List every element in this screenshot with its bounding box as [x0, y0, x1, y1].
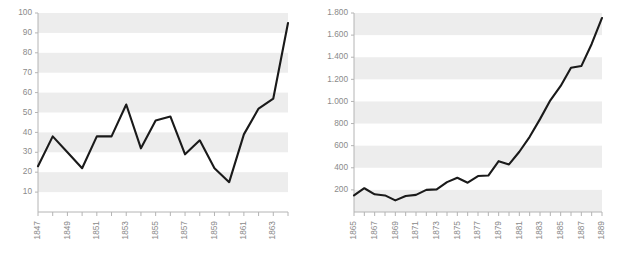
- y-axis-tick-label: 1.400: [327, 51, 348, 61]
- x-axis-tick-label: 1857: [179, 221, 189, 240]
- y-axis-tick-label: 400: [334, 162, 348, 172]
- x-axis-tick-label: 1849: [62, 221, 72, 240]
- grid-band: [354, 57, 602, 79]
- y-axis-tick-label: 30: [23, 146, 33, 156]
- x-axis-tick-label: 1877: [472, 221, 482, 240]
- grid-bands: [38, 13, 288, 192]
- line-chart-right: 1.8001.6001.4001.2001.000800600400200186…: [312, 0, 624, 258]
- y-axis-tick-label: 60: [23, 87, 33, 97]
- x-axis-tick-label: 1883: [534, 221, 544, 240]
- x-axis-tick-label: 1871: [410, 221, 420, 240]
- x-axis-tick-label: 1869: [390, 221, 400, 240]
- x-axis-tick-label: 1855: [150, 221, 160, 240]
- x-axis-tick-label: 1887: [576, 221, 586, 240]
- x-axis-tick-label: 1889: [596, 221, 606, 240]
- x-axis-tick-label: 1859: [209, 221, 219, 240]
- y-axis-tick-label: 1.000: [327, 96, 348, 106]
- y-axis-tick-label: 100: [18, 7, 32, 17]
- x-axis-tick-label: 1881: [514, 221, 524, 240]
- grid-band: [38, 172, 288, 192]
- x-axis-tick-label: 1875: [452, 221, 462, 240]
- x-axis-tick-label: 1867: [369, 221, 379, 240]
- x-axis: 1865186718691871187318751877187918811883…: [348, 212, 606, 239]
- y-axis-tick-label: 800: [334, 118, 348, 128]
- x-axis-tick-label: 1847: [32, 221, 42, 240]
- chart-panel-right: 1.8001.6001.4001.2001.000800600400200186…: [312, 0, 624, 258]
- y-axis-tick-label: 1.200: [327, 74, 348, 84]
- grid-band: [38, 93, 288, 113]
- y-axis-tick-label: 1.600: [327, 29, 348, 39]
- grid-band: [354, 13, 602, 35]
- y-axis-tick-label: 50: [23, 107, 33, 117]
- grid-band: [354, 190, 602, 212]
- y-axis: 100908070605040302010: [18, 7, 38, 212]
- x-axis-tick-label: 1863: [267, 221, 277, 240]
- x-axis-tick-label: 1861: [238, 221, 248, 240]
- y-axis-tick-label: 20: [23, 166, 33, 176]
- y-axis-tick-label: 70: [23, 67, 33, 77]
- grid-band: [38, 53, 288, 73]
- x-axis-tick-label: 1865: [348, 221, 358, 240]
- y-axis: 1.8001.6001.4001.2001.000800600400200: [327, 7, 354, 212]
- y-axis-tick-label: 10: [23, 186, 33, 196]
- grid-band: [38, 13, 288, 33]
- chart-panel-left: 1009080706050403020101847184918511853185…: [0, 0, 312, 258]
- figure-root: 1009080706050403020101847184918511853185…: [0, 0, 624, 258]
- y-axis-tick-label: 40: [23, 127, 33, 137]
- y-axis-tick-label: 200: [334, 184, 348, 194]
- grid-band: [354, 101, 602, 123]
- grid-bands: [354, 13, 602, 212]
- x-axis-tick-label: 1879: [493, 221, 503, 240]
- y-axis-tick-label: 1.800: [327, 7, 348, 17]
- y-axis-tick-label: 600: [334, 140, 348, 150]
- x-axis-tick-label: 1873: [431, 221, 441, 240]
- grid-band: [38, 132, 288, 152]
- y-axis-tick-label: 90: [23, 27, 33, 37]
- y-axis-tick-label: 80: [23, 47, 33, 57]
- x-axis-tick-label: 1851: [91, 221, 101, 240]
- x-axis-tick-label: 1853: [120, 221, 130, 240]
- line-chart-left: 1009080706050403020101847184918511853185…: [0, 0, 312, 258]
- grid-band: [354, 146, 602, 168]
- x-axis-tick-label: 1885: [555, 221, 565, 240]
- x-axis: 184718491851185318551857185918611863: [32, 212, 288, 239]
